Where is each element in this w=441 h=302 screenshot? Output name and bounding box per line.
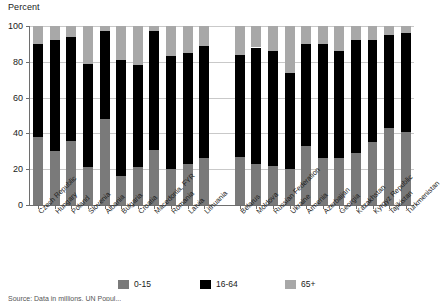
legend-swatch-icon <box>200 280 211 289</box>
legend-label: 16-64 <box>216 280 238 289</box>
bar-segment-0-15 <box>235 157 245 205</box>
x-axis-category-labels: Czech RepublicHungaryPolandSloveniaAlban… <box>0 206 417 276</box>
bar-segment-65plus <box>183 26 193 53</box>
legend-item[interactable]: 16-64 <box>200 277 238 291</box>
bar-segment-16-64 <box>301 44 311 146</box>
bar-segment-65plus <box>351 26 361 40</box>
y-axis-tick-label: 60 <box>13 94 23 103</box>
bar-stack <box>285 26 295 205</box>
bar-segment-16-64 <box>235 55 245 157</box>
bar-segment-65plus <box>235 26 245 55</box>
bar-stack <box>149 26 159 205</box>
bar-segment-16-64 <box>251 48 261 164</box>
bar-segment-16-64 <box>285 73 295 170</box>
bar-segment-65plus <box>50 26 60 40</box>
bar-stack <box>334 26 344 205</box>
bar-segment-16-64 <box>368 40 378 142</box>
y-axis-tick-label: 100 <box>8 22 23 31</box>
y-axis-tick-mark <box>26 169 30 170</box>
bar-segment-16-64 <box>33 44 43 137</box>
source-note: Source: Data in millions, UN Popul... <box>8 295 121 301</box>
chart-legend: 0-1516-6465+ <box>0 277 417 293</box>
y-axis-tick-label: 80 <box>13 58 23 67</box>
bar-stack <box>100 26 110 205</box>
bar-segment-65plus <box>166 26 176 56</box>
plot-area <box>30 26 414 205</box>
bar-segment-16-64 <box>183 53 193 164</box>
bar-stack <box>116 26 126 205</box>
bar-segment-16-64 <box>318 44 328 159</box>
bar-stack <box>251 26 261 205</box>
legend-swatch-icon <box>118 280 129 289</box>
bar-segment-65plus <box>368 26 378 40</box>
bar-segment-16-64 <box>166 56 176 169</box>
bar-segment-16-64 <box>384 35 394 128</box>
bar-segment-16-64 <box>66 37 76 141</box>
bar-stack <box>384 26 394 205</box>
bar-segment-65plus <box>268 26 278 51</box>
bar-segment-65plus <box>100 26 110 31</box>
bar-segment-65plus <box>66 26 76 37</box>
bar-segment-65plus <box>116 26 126 60</box>
bar-stack <box>235 26 245 205</box>
y-axis-title: Percent <box>8 2 40 13</box>
bar-stack <box>268 26 278 205</box>
legend-swatch-icon <box>285 280 296 289</box>
bar-stack <box>33 26 43 205</box>
bar-segment-65plus <box>199 26 209 46</box>
legend-item[interactable]: 65+ <box>285 277 315 291</box>
bar-segment-16-64 <box>268 51 278 166</box>
bar-stack <box>351 26 361 205</box>
legend-item[interactable]: 0-15 <box>118 277 151 291</box>
bar-segment-65plus <box>83 26 93 64</box>
bar-segment-16-64 <box>116 60 126 176</box>
y-axis-tick-label: 20 <box>13 165 23 174</box>
bar-stack <box>133 26 143 205</box>
bar-segment-65plus <box>334 26 344 51</box>
bar-segment-65plus <box>301 26 311 44</box>
bar-segment-65plus <box>318 26 328 44</box>
bar-segment-65plus <box>251 26 261 47</box>
bar-segment-65plus <box>33 26 43 44</box>
bar-segment-16-64 <box>199 46 209 159</box>
bar-stack <box>318 26 328 205</box>
bar-stack <box>50 26 60 205</box>
bar-segment-16-64 <box>351 40 361 153</box>
bar-segment-16-64 <box>334 51 344 158</box>
bar-segment-16-64 <box>401 33 411 131</box>
y-axis-tick-label: 40 <box>13 129 23 138</box>
bar-segment-0-15 <box>33 137 43 205</box>
bar-stack <box>199 26 209 205</box>
bar-segment-16-64 <box>50 40 60 151</box>
bar-segment-65plus <box>384 26 394 35</box>
bar-stack <box>83 26 93 205</box>
legend-label: 65+ <box>301 280 315 289</box>
bar-stack <box>166 26 176 205</box>
y-axis-tick-mark <box>26 62 30 63</box>
bar-segment-65plus <box>285 26 295 73</box>
y-axis-tick-mark <box>26 98 30 99</box>
y-axis-tick-mark <box>26 133 30 134</box>
bar-segment-65plus <box>133 26 143 65</box>
bar-segment-16-64 <box>83 64 93 168</box>
y-axis-tick-mark <box>26 26 30 27</box>
bar-stack <box>368 26 378 205</box>
bar-segment-65plus <box>149 26 159 31</box>
bar-segment-16-64 <box>133 65 143 167</box>
legend-label: 0-15 <box>134 280 151 289</box>
bar-segment-65plus <box>401 26 411 33</box>
bar-series-container <box>30 26 414 205</box>
bar-segment-16-64 <box>100 31 110 119</box>
bar-segment-16-64 <box>149 31 159 149</box>
